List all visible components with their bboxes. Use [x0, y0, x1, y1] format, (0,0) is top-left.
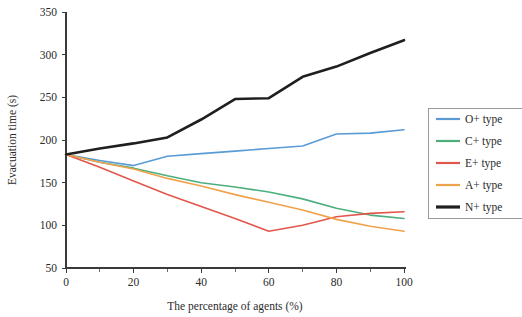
- line-chart: 50100150200250300350 020406080100 The pe…: [0, 0, 522, 317]
- x-tick-label: 0: [63, 276, 69, 288]
- series-line-n-type: [66, 40, 404, 154]
- y-tick-label: 250: [40, 91, 58, 103]
- y-tick-label: 50: [46, 262, 58, 274]
- series-lines: [66, 40, 404, 231]
- y-tick-label: 300: [40, 49, 58, 61]
- x-axis-title: The percentage of agents (%): [167, 300, 303, 313]
- y-tick-label: 150: [40, 177, 58, 189]
- series-line-c-type: [66, 155, 404, 219]
- legend: O+ typeC+ typeE+ typeA+ typeN+ type: [428, 108, 522, 218]
- x-axis-ticks: 020406080100: [63, 268, 413, 288]
- x-tick-label: 40: [195, 276, 207, 288]
- y-tick-label: 100: [40, 219, 58, 231]
- y-axis-ticks: 50100150200250300350: [40, 6, 66, 274]
- series-line-o-type: [66, 130, 404, 166]
- y-tick-label: 200: [40, 134, 58, 146]
- x-tick-label: 20: [128, 276, 140, 288]
- legend-label: N+ type: [465, 201, 502, 214]
- y-tick-label: 350: [40, 6, 58, 18]
- legend-label: O+ type: [465, 113, 502, 126]
- legend-label: E+ type: [465, 157, 501, 170]
- x-tick-label: 100: [395, 276, 413, 288]
- chart-figure: 50100150200250300350 020406080100 The pe…: [0, 0, 522, 317]
- legend-label: A+ type: [465, 179, 502, 192]
- legend-label: C+ type: [465, 135, 502, 148]
- series-line-a-type: [66, 155, 404, 232]
- x-tick-label: 80: [331, 276, 343, 288]
- y-axis-title: Evacuation time (s): [6, 95, 19, 185]
- x-tick-label: 60: [263, 276, 275, 288]
